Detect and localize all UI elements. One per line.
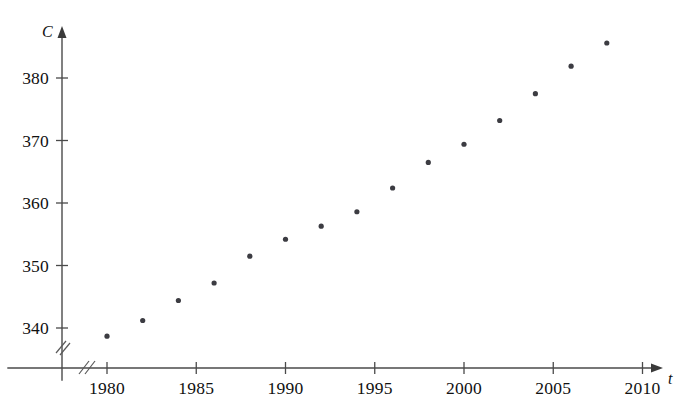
x-tick-label-1995: 1995 bbox=[357, 378, 393, 398]
data-point: 2008, 385.6 bbox=[604, 40, 609, 45]
data-point: 2006, 381.9 bbox=[569, 64, 574, 69]
data-point-group: 1980, 338.71982, 341.21984, 344.41986, 3… bbox=[104, 40, 609, 338]
x-axis-title: t bbox=[668, 370, 673, 387]
x-tick-label-2000: 2000 bbox=[446, 378, 482, 398]
y-tick-label-350: 350 bbox=[22, 256, 49, 276]
y-axis-title: C bbox=[42, 23, 53, 40]
x-tick-label-1985: 1985 bbox=[178, 378, 214, 398]
data-point: 1980, 338.7 bbox=[104, 334, 109, 339]
x-tick-label-1980: 1980 bbox=[89, 378, 125, 398]
y-tick-label-370: 370 bbox=[22, 131, 49, 151]
y-tick-label-380: 380 bbox=[22, 68, 49, 88]
data-point: 1998, 366.5 bbox=[426, 160, 431, 165]
y-axis-arrowhead bbox=[58, 26, 67, 38]
chart-canvas: 340350360370380 198019851990199520002005… bbox=[0, 0, 685, 419]
data-point: 1988, 351.5 bbox=[247, 254, 252, 259]
data-point: 2002, 373.2 bbox=[497, 118, 502, 123]
y-tick-group: 340350360370380 bbox=[22, 68, 68, 338]
data-point: 1986, 347.2 bbox=[212, 280, 217, 285]
y-axis-break-icon bbox=[56, 341, 70, 355]
y-tick-label-340: 340 bbox=[22, 318, 49, 338]
data-point: 2004, 377.5 bbox=[533, 91, 538, 96]
data-point: 1984, 344.4 bbox=[176, 298, 181, 303]
scatter-chart-figure: · · · · · · · · · · · · · · · 3403503603… bbox=[0, 0, 685, 419]
x-tick-label-2005: 2005 bbox=[535, 378, 571, 398]
data-point: 1994, 358.6 bbox=[354, 209, 359, 214]
data-point: 1996, 362.4 bbox=[390, 185, 395, 190]
data-point: 1990, 354.2 bbox=[283, 237, 288, 242]
data-point: 2000, 369.4 bbox=[461, 142, 466, 147]
x-axis bbox=[8, 361, 663, 374]
x-axis-arrowhead bbox=[651, 364, 663, 373]
data-point: 1982, 341.2 bbox=[140, 318, 145, 323]
data-point: 1992, 356.3 bbox=[319, 224, 324, 229]
x-tick-label-2010: 2010 bbox=[625, 378, 661, 398]
x-tick-label-1990: 1990 bbox=[268, 378, 304, 398]
y-tick-label-360: 360 bbox=[22, 193, 49, 213]
